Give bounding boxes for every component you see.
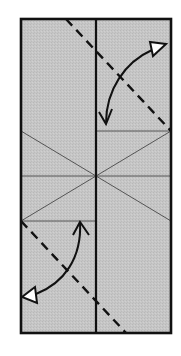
origami-diagram — [0, 0, 181, 356]
